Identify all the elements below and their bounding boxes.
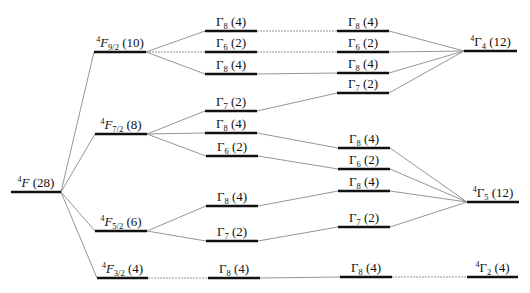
level-label-a7: Γ8 (4) bbox=[217, 189, 247, 206]
connector-b3-G4 bbox=[389, 51, 464, 73]
connector-F72-a6 bbox=[147, 134, 206, 156]
level-label-b3: Γ8 (4) bbox=[348, 56, 378, 73]
level-labels: 4F (28)4F9/2 (10)4F7/2 (8)4F5/2 (6)4F3/2… bbox=[18, 14, 514, 278]
connector-F52-a8 bbox=[147, 231, 206, 241]
connector-a3-b3 bbox=[257, 73, 337, 74]
connector-b4-G4 bbox=[389, 51, 464, 93]
level-label-G5: 4Γ5 (12) bbox=[473, 185, 514, 202]
connector-b5-G5 bbox=[390, 148, 467, 202]
connector-F72-a5 bbox=[147, 133, 205, 134]
level-label-F92: 4F9/2 (10) bbox=[96, 35, 144, 52]
level-label-b1: Γ8 (4) bbox=[348, 14, 378, 31]
connector-F-F52 bbox=[61, 192, 95, 231]
level-label-b7: Γ8 (4) bbox=[349, 174, 379, 191]
connector-a9-b9 bbox=[260, 277, 340, 278]
level-label-a1: Γ8 (4) bbox=[216, 14, 246, 31]
energy-levels bbox=[11, 31, 519, 278]
level-label-a2: Γ6 (2) bbox=[216, 35, 246, 52]
connector-F-F32 bbox=[61, 192, 97, 278]
level-label-b4: Γ7 (2) bbox=[348, 76, 378, 93]
level-label-F52: 4F5/2 (6) bbox=[100, 214, 141, 231]
level-label-a6: Γ6 (2) bbox=[217, 139, 247, 156]
connector-a4-b4 bbox=[257, 93, 337, 111]
connector-F-F92 bbox=[61, 52, 94, 192]
connector-F92-a3 bbox=[146, 52, 205, 74]
connector-b8-G5 bbox=[390, 202, 467, 227]
level-label-b2: Γ6 (2) bbox=[348, 35, 378, 52]
level-label-G4: 4Γ4 (12) bbox=[470, 34, 511, 51]
connector-b6-G5 bbox=[390, 169, 467, 202]
connector-a6-b6 bbox=[258, 156, 338, 169]
connector-F72-a4 bbox=[147, 111, 205, 134]
level-label-b6: Γ6 (2) bbox=[349, 152, 379, 169]
level-label-a9: Γ8 (4) bbox=[219, 261, 249, 278]
connector-b1-G4 bbox=[389, 31, 464, 51]
connector-a7-b7 bbox=[258, 191, 338, 206]
level-label-a3: Γ8 (4) bbox=[216, 57, 246, 74]
connector-F52-a7 bbox=[147, 206, 206, 231]
connector-a5-b5 bbox=[257, 133, 338, 148]
energy-level-diagram: 4F (28)4F9/2 (10)4F7/2 (8)4F5/2 (6)4F3/2… bbox=[0, 0, 530, 293]
level-label-a5: Γ8 (4) bbox=[216, 116, 246, 133]
connector-b7-G5 bbox=[390, 191, 467, 202]
connector-lines bbox=[61, 31, 467, 278]
level-label-G2: 4Γ2 (4) bbox=[475, 260, 509, 277]
level-label-a8: Γ7 (2) bbox=[217, 224, 247, 241]
connector-F-F72 bbox=[61, 134, 95, 192]
level-label-b5: Γ8 (4) bbox=[349, 131, 379, 148]
connector-b2-G4 bbox=[389, 51, 464, 52]
level-label-a4: Γ7 (2) bbox=[216, 94, 246, 111]
level-label-b8: Γ7 (2) bbox=[349, 210, 379, 227]
level-label-F72: 4F7/2 (8) bbox=[100, 117, 141, 134]
connector-a8-b8 bbox=[258, 227, 338, 241]
level-label-b9: Γ8 (4) bbox=[351, 260, 381, 277]
level-label-F32: 4F3/2 (4) bbox=[102, 261, 143, 278]
connector-F92-a1 bbox=[146, 31, 205, 52]
level-label-F: 4F (28) bbox=[18, 175, 55, 190]
